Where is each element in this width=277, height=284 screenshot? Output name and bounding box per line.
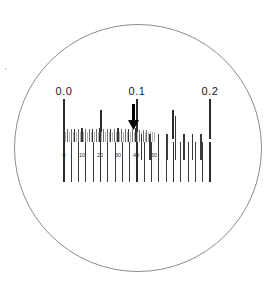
main-scale-tick [172,110,173,139]
vernier-tick [132,129,133,142]
main-scale-tick [141,134,142,160]
screenshot-root: 0.00.10.2 01020304050 [0,0,277,284]
main-scale-tick [180,142,181,182]
vernier-tick [76,132,77,142]
main-scale-tick [129,142,130,182]
vernier-tick [65,132,66,142]
main-scale-tick [202,142,203,182]
main-scale-tick [166,134,167,160]
main-scale-tick [183,134,184,160]
vernier-tick [137,132,138,142]
main-scale-tick [209,99,211,139]
main-scale-tick [209,142,211,182]
main-scale-tick [71,142,72,182]
main-scale-tick [195,142,196,182]
vernier-tick [110,129,111,142]
main-scale-tick [175,116,176,160]
vernier-tick [78,129,79,142]
main-scale-label: 0.1 [129,85,146,97]
main-scale-tick [200,134,201,160]
main-scale-label: 0.2 [202,85,219,97]
vernier-tick [83,132,84,142]
main-scale-tick [158,134,159,160]
vernier-tick [69,132,70,142]
vernier-tick [94,132,95,142]
main-scale-tick [192,134,193,160]
vernier-tick [105,132,106,142]
vernier-tick [143,130,144,142]
vernier-tick [121,129,122,142]
vernier-tick [101,132,102,142]
vernier-tick [125,129,126,142]
main-scale-tick [115,142,116,182]
main-scale-tick [149,134,150,160]
main-scale-tick [188,142,189,182]
vernier-tick [71,129,72,142]
vernier-tick [152,132,153,142]
vernier-tick [128,129,129,142]
main-scale-tick [151,142,152,182]
vernier-tick [107,129,108,142]
vernier-tick [114,129,115,142]
vernier-tick [146,130,147,142]
vernier-tick [139,130,140,142]
vernier-tick [119,132,120,142]
pointer-arrow-icon [128,104,139,130]
vernier-tick [145,132,146,142]
vernier-tick [85,129,86,142]
vernier-tick [74,129,75,142]
vernier-tick [154,132,155,142]
vernier-tick [89,129,90,142]
main-scale-tick [63,142,65,182]
vernier-scale-label: 30 [115,152,121,158]
vernier-tick [87,132,88,142]
main-scale-tick [144,142,145,182]
vernier-tick [130,132,131,142]
main-scale-tick [136,142,138,182]
scale-graphic: 0.00.10.2 01020304050 [0,0,277,284]
main-scale-tick [122,142,123,182]
vernier-tick [92,129,93,142]
vernier-tick [123,132,124,142]
vernier-tick [96,129,97,142]
main-scale-tick [107,142,108,182]
main-scale-tick [78,142,79,182]
vernier-tick [67,129,68,142]
vernier-tick [103,129,104,142]
main-scale-tick [93,142,94,182]
main-scale-label: 0.0 [56,85,73,97]
main-scale-tick [100,142,101,182]
vernier-scale-label: 10 [79,152,85,158]
vernier-tick [112,132,113,142]
main-scale-tick [85,142,86,182]
